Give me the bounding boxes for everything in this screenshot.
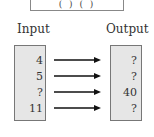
arrow-right-icon: [54, 104, 101, 112]
output-cell: 40: [111, 86, 137, 99]
input-cell: 11: [15, 102, 43, 115]
arrow-right-icon: [54, 72, 101, 80]
input-cell: 4: [15, 54, 43, 67]
input-cell: 5: [15, 70, 43, 83]
function-rule-text: ( ) ( ): [31, 0, 123, 9]
arrow-right-icon: [54, 56, 101, 64]
output-cell: ?: [111, 70, 137, 83]
input-header: Input: [17, 22, 50, 36]
input-column: 4 5 ? 11: [14, 45, 46, 121]
input-cell: ?: [15, 86, 43, 99]
output-cell: ?: [111, 102, 137, 115]
output-column: ? ? 40 ?: [110, 45, 142, 121]
function-rule-box: ( ) ( ): [30, 0, 124, 11]
output-header: Output: [106, 22, 149, 36]
arrow-right-icon: [54, 88, 101, 96]
output-cell: ?: [111, 54, 137, 67]
